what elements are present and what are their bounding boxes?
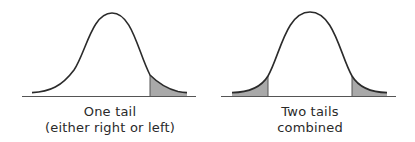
caption-line-1: Two tails: [220, 104, 400, 120]
caption-line-2: (either right or left): [20, 120, 200, 136]
normal-curve: [32, 13, 187, 93]
two-tails-caption: Two tails combined: [220, 104, 400, 136]
caption-line-2: combined: [220, 120, 400, 136]
one-tail-caption: One tail (either right or left): [20, 104, 200, 136]
two-tails-diagram: [221, 12, 396, 97]
caption-line-1: One tail: [20, 104, 200, 120]
normal-curve: [232, 12, 387, 93]
one-tail-diagram: [22, 13, 196, 97]
